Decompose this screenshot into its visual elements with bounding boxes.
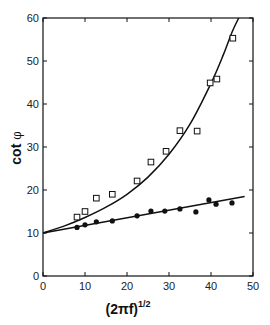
y-tick-label: 60 <box>27 12 39 24</box>
filled-circle-point <box>82 222 87 227</box>
open-square-point <box>207 80 213 86</box>
filled-circle-point <box>94 219 99 224</box>
x-tick-label: 30 <box>163 280 175 292</box>
y-tick-label: 30 <box>27 141 39 153</box>
open-square-point <box>82 209 88 215</box>
y-axis-label: cotφ <box>8 131 24 164</box>
y-tick-label: 40 <box>27 98 39 110</box>
axis-ticks <box>43 18 253 276</box>
filled-circle-point <box>110 218 115 223</box>
filled-circle-point <box>162 208 167 213</box>
open-square-point <box>94 195 100 201</box>
filled-circle-point <box>148 208 153 213</box>
x-axis-label-superscript: 1/2 <box>138 299 151 309</box>
plot-frame <box>43 18 253 276</box>
filled-circle-point <box>74 225 79 230</box>
linear-fit <box>43 196 245 233</box>
y-tick-label: 10 <box>27 227 39 239</box>
y-axis-label-text: cot <box>8 143 24 164</box>
open-square-point <box>230 35 236 41</box>
open-square-point <box>134 178 140 184</box>
x-axis-label-text: (2πf) <box>105 301 138 317</box>
x-tick-label: 40 <box>205 280 217 292</box>
open-square-point <box>110 192 116 198</box>
x-tick-label: 0 <box>40 280 46 292</box>
open-square-point <box>194 128 200 134</box>
fit-lines <box>43 18 245 233</box>
open-square-point <box>74 214 80 220</box>
open-square-point <box>177 128 183 134</box>
y-tick-label: 0 <box>33 270 39 282</box>
filled-circle-point <box>134 213 139 218</box>
filled-circle-point <box>206 197 211 202</box>
x-tick-label: 20 <box>121 280 133 292</box>
open-square-point <box>163 149 169 155</box>
chart: 01020304050 0102030405060 (2πf)1/2 cotφ <box>0 0 270 325</box>
x-tick-label: 50 <box>247 280 259 292</box>
y-tick-label: 50 <box>27 55 39 67</box>
y-tick-label: 20 <box>27 184 39 196</box>
y-axis-label-symbol: φ <box>10 131 24 139</box>
x-tick-label: 10 <box>79 280 91 292</box>
y-tick-labels: 0102030405060 <box>27 12 39 282</box>
open-square-point <box>214 76 220 82</box>
open-square-point <box>148 159 154 165</box>
filled-circle-point <box>229 200 234 205</box>
x-axis-label: (2πf)1/2 <box>105 299 150 317</box>
filled-circle-point <box>193 209 198 214</box>
data-points <box>74 35 235 230</box>
filled-circle-point <box>213 202 218 207</box>
x-tick-labels: 01020304050 <box>40 280 259 292</box>
filled-circle-point <box>177 206 182 211</box>
